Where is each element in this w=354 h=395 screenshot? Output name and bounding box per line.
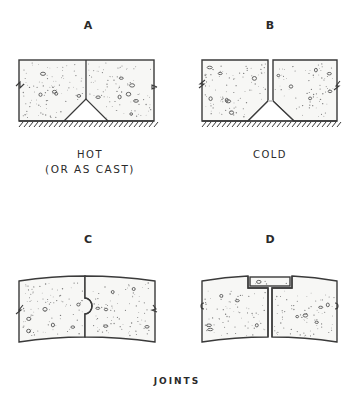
- caption-cold: COLD: [230, 149, 310, 160]
- panel-label-b: B: [260, 19, 280, 32]
- caption-hot: HOT: [50, 149, 130, 160]
- panel-d-drawing: [201, 276, 338, 342]
- ground-hatch-marks-b: [202, 122, 341, 127]
- panel-a-drawing: [16, 60, 157, 121]
- figure-title: JOINTS: [137, 376, 217, 386]
- panel-c-drawing: [16, 276, 157, 342]
- ground-hatch-marks-a: [19, 122, 158, 127]
- panel-label-d: D: [260, 233, 280, 246]
- joints-diagram: [0, 0, 354, 395]
- caption-or-as-cast: (OR AS CAST): [40, 163, 140, 175]
- panel-b-drawing: [199, 60, 340, 121]
- panel-label-c: C: [78, 233, 98, 246]
- panel-label-a: A: [78, 19, 98, 32]
